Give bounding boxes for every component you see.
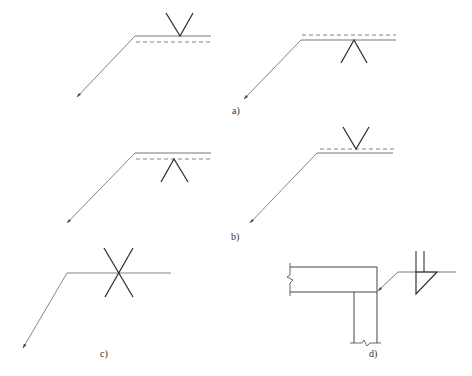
v-groove-symbol-icon: [343, 127, 369, 149]
panel-d: [287, 251, 456, 346]
break-mark-left-icon: [287, 263, 293, 296]
panel-label-d: d): [369, 348, 377, 359]
panel-b-left: [67, 153, 211, 223]
panel-b-right: [250, 127, 394, 223]
panel-label-c: c): [100, 348, 108, 359]
panel-c: [23, 248, 171, 348]
fillet-weld-symbol-icon: [416, 272, 437, 294]
leader-arrow-line: [378, 272, 398, 291]
leader-arrow-line: [67, 153, 135, 223]
v-groove-symbol-icon: [161, 159, 188, 182]
leader-arrow-line: [250, 153, 317, 223]
panel-label-b: b): [231, 231, 239, 242]
leader-arrow-line: [23, 273, 67, 348]
panel-a-left: [77, 13, 211, 97]
v-groove-symbol-icon: [166, 13, 193, 36]
leader-arrow-line: [77, 36, 135, 97]
weld-symbol-diagram: [0, 0, 472, 376]
panel-a-right: [244, 35, 396, 99]
panel-label-a: a): [232, 105, 240, 116]
break-mark-bottom-icon: [350, 340, 381, 346]
v-groove-symbol-icon: [341, 40, 367, 63]
leader-arrow-line: [244, 40, 301, 99]
